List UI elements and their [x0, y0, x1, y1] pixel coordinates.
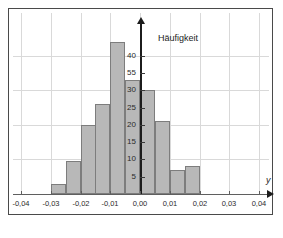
x-axis-tick: [110, 191, 111, 195]
vertical-gridline: [259, 13, 260, 194]
x-axis-tick: [140, 191, 141, 195]
histogram-bar: [155, 121, 170, 194]
plot-area: 510152025305540-0,04-0,03-0,02-0,010,000…: [9, 9, 272, 214]
vertical-gridline: [200, 13, 201, 194]
x-axis-tick: [51, 191, 52, 195]
vertical-gridline: [51, 13, 52, 194]
x-axis-tick: [229, 191, 230, 195]
y-axis-tick: [140, 73, 145, 74]
y-axis-tick-label: 55: [116, 68, 136, 77]
vertical-gridline: [21, 13, 22, 194]
y-axis-arrow-icon: [137, 17, 145, 24]
x-axis-tick: [170, 191, 171, 195]
y-axis-tick: [140, 125, 145, 126]
x-axis-label: y: [266, 175, 271, 185]
y-axis-tick: [140, 159, 145, 160]
histogram-bar: [185, 166, 200, 194]
y-axis-label: Häufigkeit: [158, 33, 198, 43]
y-axis-tick-label: 20: [116, 120, 136, 129]
histogram-figure: 510152025305540-0,04-0,03-0,02-0,010,000…: [0, 0, 283, 238]
y-axis-tick-label: 25: [116, 103, 136, 112]
y-axis-tick: [140, 90, 145, 91]
y-axis-tick: [140, 108, 145, 109]
x-axis-tick: [81, 191, 82, 195]
x-axis-tick-label: -0,03: [38, 199, 64, 208]
histogram-bar: [66, 161, 81, 194]
x-axis-tick-label: 0,02: [187, 199, 213, 208]
y-axis-tick: [140, 56, 145, 57]
x-axis-tick-label: 0,03: [216, 199, 242, 208]
x-axis-tick-label: 0,00: [127, 199, 153, 208]
chart-frame: 510152025305540-0,04-0,03-0,02-0,010,000…: [8, 8, 273, 215]
x-axis-tick: [259, 191, 260, 195]
y-axis-tick-label: 30: [116, 85, 136, 94]
y-axis-tick-label: 10: [116, 154, 136, 163]
vertical-gridline: [229, 13, 230, 194]
histogram-bar: [81, 125, 96, 194]
y-axis-tick: [140, 142, 145, 143]
histogram-bar: [95, 104, 110, 194]
x-axis-tick-label: 0,01: [157, 199, 183, 208]
x-axis-tick-label: -0,04: [8, 199, 34, 208]
y-axis-tick-label: 5: [116, 172, 136, 181]
x-axis-tick-label: -0,01: [97, 199, 123, 208]
y-axis-tick-label: 15: [116, 137, 136, 146]
histogram-bar: [51, 184, 66, 194]
x-axis-tick-label: -0,02: [68, 199, 94, 208]
x-axis-tick: [200, 191, 201, 195]
histogram-bar: [170, 170, 185, 194]
x-axis-tick: [21, 191, 22, 195]
x-axis-tick-label: 0,04: [246, 199, 272, 208]
y-axis-tick: [140, 177, 145, 178]
x-axis-arrow-icon: [267, 190, 274, 198]
y-axis-tick-label: 40: [116, 51, 136, 60]
